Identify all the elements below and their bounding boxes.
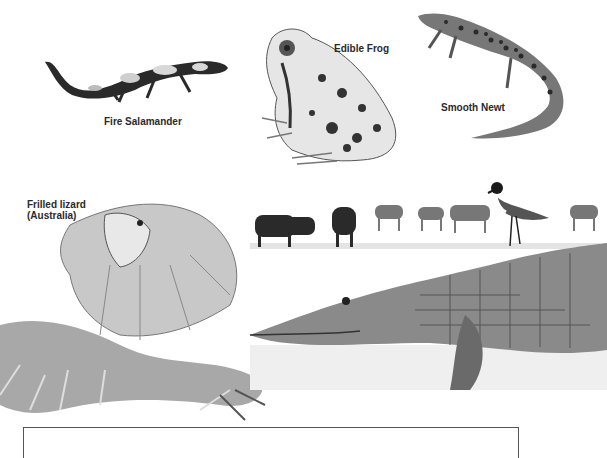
fire-salamander-label: Fire Salamander — [104, 116, 182, 127]
frilled-lizard-label-line1: Frilled lizard — [27, 199, 86, 210]
edible-frog-label: Edible Frog — [334, 43, 389, 54]
caption-frame — [23, 427, 519, 458]
crocodile-illustration — [250, 235, 607, 395]
fire-salamander-illustration — [40, 40, 235, 105]
frilled-lizard-label: Frilled lizard (Australia) — [27, 199, 86, 221]
frilled-lizard-label-line2: (Australia) — [27, 210, 86, 221]
smooth-newt-illustration — [416, 8, 586, 143]
edible-frog-illustration — [252, 18, 412, 168]
frilled-lizard-illustration — [0, 195, 280, 435]
smooth-newt-label: Smooth Newt — [441, 102, 505, 113]
